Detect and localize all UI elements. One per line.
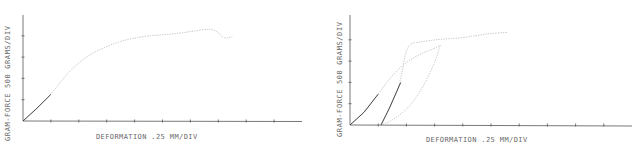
plot-area-left (0, 0, 316, 151)
x-axis-label-right: DEFORMATION .25 MM/DIV (426, 136, 528, 144)
initial-trace-segment (381, 82, 401, 125)
plot-area-right (316, 0, 632, 151)
chart-right: GRAM-FORCE 500 GRAMS/DIV DEFORMATION .25… (316, 0, 632, 151)
data-series-loading (23, 29, 232, 121)
initial-trace-segment (350, 94, 378, 125)
y-axis-label-right: GRAM-FORCE 500 GRAMS/DIV (336, 21, 344, 137)
y-axis-label-left: GRAM-FORCE 500 GRAMS/DIV (4, 25, 12, 141)
initial-trace-segment (23, 94, 51, 121)
x-axis-label-left: DEFORMATION .25 MM/DIV (96, 133, 198, 141)
data-series-reloading (381, 32, 508, 125)
chart-left: GRAM-FORCE 500 GRAMS/DIV DEFORMATION .25… (0, 0, 316, 151)
data-series-unloading (381, 45, 440, 125)
